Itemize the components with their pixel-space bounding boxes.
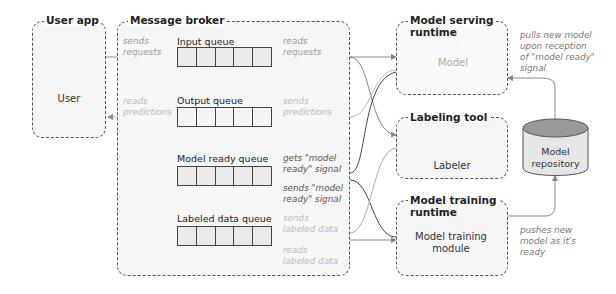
note-gets-model-ready: gets "model ready" signal	[283, 153, 341, 175]
model-training-title-1: Model training	[408, 194, 499, 206]
queue-label-input: Input queue	[177, 36, 234, 47]
user-app-title: User app	[44, 14, 101, 26]
model-serving-title-1: Model serving	[408, 14, 496, 26]
note-reads-requests: reads requests	[283, 36, 321, 58]
note-sends-requests: sends requests	[123, 36, 161, 58]
output-queue	[177, 107, 272, 127]
user-label: User	[32, 93, 106, 104]
labeler-label: Labeler	[396, 160, 508, 171]
model-ready-queue	[177, 166, 272, 186]
note-sends-predictions: sends predictions	[283, 96, 332, 118]
queue-label-output: Output queue	[177, 95, 243, 106]
input-queue	[177, 47, 272, 67]
training-module-label-1: Model training	[415, 231, 487, 242]
model-serving-title-2: runtime	[408, 26, 459, 38]
model-training-title-2: runtime	[408, 206, 459, 218]
queue-label-labeled-data: Labeled data queue	[177, 213, 272, 224]
note-pulls-new-model: pulls new model upon reception of "model…	[520, 30, 595, 74]
repository-label-1: Model	[541, 146, 570, 157]
labeled-data-queue	[177, 226, 272, 246]
repository-label-2: repository	[531, 158, 579, 169]
labeling-tool-title: Labeling tool	[408, 111, 489, 123]
repository-label: Model repository	[523, 146, 588, 170]
note-reads-labeled-data: reads labeled data	[283, 245, 338, 267]
training-module-label: Model training module	[413, 231, 489, 255]
note-sends-model-ready: sends "model ready" signal	[283, 183, 343, 205]
message-broker-title: Message broker	[128, 14, 226, 26]
queue-label-model-ready: Model ready queue	[177, 153, 268, 164]
model-label: Model	[424, 57, 482, 68]
note-reads-predictions: reads predictions	[123, 96, 172, 118]
note-sends-labeled-data: sends labeled data	[283, 213, 338, 235]
user-app-container	[32, 21, 106, 138]
note-pushes-new-model: pushes new model as it's ready	[520, 225, 576, 258]
training-module-label-2: module	[432, 243, 469, 254]
